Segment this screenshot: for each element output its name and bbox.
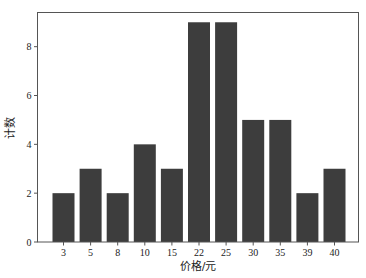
y-tick-label: 6 — [27, 90, 32, 101]
x-tick-label: 30 — [248, 247, 258, 258]
bar-5 — [80, 169, 102, 242]
x-tick-label: 10 — [140, 247, 150, 258]
x-tick-label: 15 — [167, 247, 177, 258]
bar-25 — [215, 22, 237, 242]
y-axis-label: 计数 — [4, 117, 17, 139]
bar-8 — [107, 193, 129, 242]
x-tick-label: 35 — [275, 247, 285, 258]
bar-22 — [188, 22, 210, 242]
x-tick-label: 22 — [194, 247, 204, 258]
bars-group — [53, 22, 346, 242]
bar-40 — [324, 169, 346, 242]
bar-30 — [242, 120, 264, 242]
x-tick-label: 25 — [221, 247, 231, 258]
x-tick-label: 8 — [115, 247, 120, 258]
x-tick-label: 39 — [302, 247, 312, 258]
y-tick-label: 8 — [27, 41, 32, 52]
x-axis-label: 价格/元 — [180, 259, 217, 273]
y-tick-label: 0 — [27, 237, 32, 248]
y-axis: 02468 — [27, 41, 38, 247]
bar-chart: 02468 3581015222530353940 价格/元 计数 — [0, 0, 366, 278]
bar-15 — [161, 169, 183, 242]
bar-39 — [296, 193, 318, 242]
bar-3 — [53, 193, 75, 242]
y-tick-label: 4 — [27, 139, 32, 150]
x-tick-label: 3 — [61, 247, 66, 258]
bar-10 — [134, 144, 156, 242]
x-axis: 3581015222530353940 — [61, 242, 340, 258]
y-tick-label: 2 — [27, 188, 32, 199]
x-tick-label: 5 — [88, 247, 93, 258]
bar-35 — [269, 120, 291, 242]
x-tick-label: 40 — [330, 247, 340, 258]
